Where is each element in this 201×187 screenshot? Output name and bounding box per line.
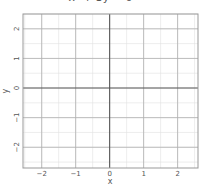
x-tick-label: −1 — [71, 170, 81, 178]
y-tick-label: 2 — [13, 27, 21, 31]
y-tick-label: −1 — [13, 112, 21, 122]
y-tick-labels: −2−1012 — [13, 27, 21, 153]
x-tick-label: 2 — [175, 170, 179, 178]
x-tick-label: −2 — [37, 170, 47, 178]
zero-axes — [23, 14, 198, 168]
y-axis-label: y — [1, 88, 10, 93]
major-gridlines — [23, 14, 198, 168]
y-tick-label: −2 — [13, 142, 21, 152]
y-tick-label: 0 — [13, 86, 21, 90]
x-tick-label: 1 — [141, 170, 145, 178]
minor-gridlines — [23, 14, 198, 168]
plot-frame — [23, 14, 198, 168]
y-tick-label: 1 — [13, 56, 21, 60]
x-axis-label: x — [108, 177, 113, 186]
chart-canvas: −2−1012 −2−1012 x y — [0, 0, 201, 187]
